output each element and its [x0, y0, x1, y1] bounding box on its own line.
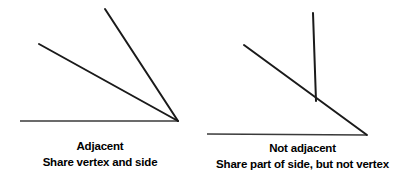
- caption-adjacent-subtitle: Share vertex and side: [0, 154, 200, 171]
- caption-not-adjacent-subtitle: Share part of side, but not vertex: [195, 156, 410, 173]
- caption-not-adjacent: Not adjacent Share part of side, but not…: [195, 140, 410, 173]
- adjacent-shallow-ray: [39, 44, 178, 121]
- caption-adjacent-title: Adjacent: [0, 138, 200, 154]
- figure-adjacent: [0, 0, 200, 140]
- diagram-canvas: Adjacent Share vertex and side Not adjac…: [0, 0, 410, 187]
- not-adjacent-angle-drawing: [195, 0, 410, 140]
- not-adjacent-diagonal-ray: [244, 45, 367, 135]
- adjacent-angle-drawing: [0, 0, 200, 140]
- caption-not-adjacent-title: Not adjacent: [195, 140, 410, 156]
- not-adjacent-baseline-ray: [207, 134, 367, 135]
- caption-adjacent: Adjacent Share vertex and side: [0, 138, 200, 171]
- figure-not-adjacent: [195, 0, 410, 140]
- not-adjacent-vertical-ray: [313, 13, 316, 101]
- adjacent-steep-ray: [105, 9, 178, 121]
